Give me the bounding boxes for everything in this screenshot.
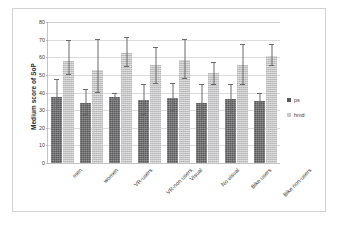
chart-legend: ps hmd	[287, 97, 325, 127]
error-cap-lower	[54, 109, 59, 110]
y-tick-label: 30	[39, 107, 45, 113]
x-tick-label: men	[71, 167, 83, 179]
bar-group	[193, 22, 222, 163]
bar-ps[interactable]	[167, 22, 178, 163]
error-cap-upper	[211, 62, 216, 63]
bar-rect	[254, 101, 265, 163]
bar-hmd[interactable]	[208, 22, 219, 163]
bar-rect	[121, 53, 132, 163]
error-bar	[242, 45, 243, 86]
bar-hmd[interactable]	[92, 22, 103, 163]
error-cap-lower	[170, 110, 175, 111]
error-cap-upper	[83, 89, 88, 90]
error-bar	[97, 40, 98, 94]
error-cap-upper	[112, 93, 117, 94]
error-cap-upper	[182, 39, 187, 40]
error-bar	[155, 48, 156, 84]
error-cap-lower	[240, 84, 245, 85]
error-cap-lower	[211, 84, 216, 85]
plot-area: 01020304050607080	[47, 22, 280, 164]
bar-group	[48, 22, 77, 163]
x-axis-category-labels: menwomenVR-usersVR-non usersVisualNo vis…	[47, 165, 280, 213]
error-cap-upper	[228, 84, 233, 85]
bar-ps[interactable]	[80, 22, 91, 163]
bar-rect	[63, 61, 74, 163]
error-cap-lower	[124, 66, 129, 67]
bar-ps[interactable]	[196, 22, 207, 163]
legend-swatch-icon-ps	[287, 98, 291, 102]
bar-group	[222, 22, 251, 163]
error-cap-upper	[257, 93, 262, 94]
error-cap-upper	[153, 47, 158, 48]
error-cap-lower	[112, 99, 117, 100]
error-bar	[172, 84, 173, 111]
bar-ps[interactable]	[51, 22, 62, 163]
bar-rect	[109, 97, 120, 163]
error-cap-upper	[240, 44, 245, 45]
bar-hmd[interactable]	[237, 22, 248, 163]
x-tick-label: Bike users	[250, 167, 273, 190]
error-cap-upper	[269, 44, 274, 45]
bar-hmd[interactable]	[63, 22, 74, 163]
error-cap-upper	[95, 39, 100, 40]
y-tick-label: 60	[39, 54, 45, 60]
legend-label-ps: ps	[294, 97, 300, 103]
legend-swatch-icon-hmd	[287, 113, 291, 117]
error-cap-upper	[141, 84, 146, 85]
error-bar	[230, 85, 231, 114]
y-tick-label: 80	[39, 19, 45, 25]
x-tick-label: VR-non users	[165, 167, 193, 195]
x-tick-label: women	[102, 167, 119, 184]
error-bar	[201, 85, 202, 119]
error-bar	[143, 85, 144, 115]
y-tick-label: 10	[39, 142, 45, 148]
error-cap-lower	[83, 114, 88, 115]
legend-label-hmd: hmd	[294, 112, 305, 118]
error-cap-lower	[228, 113, 233, 114]
error-bar	[271, 45, 272, 66]
y-tick-label: 0	[42, 160, 45, 166]
bar-rect	[266, 56, 277, 164]
error-cap-lower	[269, 65, 274, 66]
y-tick-label: 70	[39, 37, 45, 43]
error-bar	[56, 80, 57, 110]
bar-ps[interactable]	[109, 22, 120, 163]
error-bar	[126, 38, 127, 67]
x-tick-label: No visual	[220, 167, 241, 188]
bar-group	[106, 22, 135, 163]
error-cap-lower	[257, 107, 262, 108]
bar-hmd[interactable]	[179, 22, 190, 163]
error-cap-upper	[54, 79, 59, 80]
error-cap-upper	[170, 83, 175, 84]
bar-hmd[interactable]	[266, 22, 277, 163]
error-cap-lower	[153, 83, 158, 84]
error-bar	[213, 63, 214, 86]
bar-hmd[interactable]	[121, 22, 132, 163]
y-axis-title: Medium score of SoP	[30, 47, 37, 147]
error-cap-upper	[199, 84, 204, 85]
bar-hmd[interactable]	[150, 22, 161, 163]
y-tick-label: 50	[39, 72, 45, 78]
error-cap-lower	[141, 114, 146, 115]
bar-series-container	[48, 22, 280, 163]
error-cap-lower	[66, 74, 71, 75]
x-tick-label: VR-users	[133, 167, 154, 188]
error-bar	[68, 41, 69, 75]
error-cap-lower	[182, 78, 187, 79]
bar-rect	[208, 73, 219, 163]
bar-group	[164, 22, 193, 163]
error-cap-upper	[124, 37, 129, 38]
bar-group	[135, 22, 164, 163]
error-cap-lower	[95, 92, 100, 93]
error-bar	[259, 94, 260, 108]
legend-item-hmd[interactable]: hmd	[287, 112, 325, 118]
y-tick-label: 40	[39, 90, 45, 96]
error-cap-upper	[66, 40, 71, 41]
bar-ps[interactable]	[225, 22, 236, 163]
bar-ps[interactable]	[138, 22, 149, 163]
chart-figure: Medium score of SoP 01020304050607080 me…	[12, 8, 326, 212]
y-tick-label: 20	[39, 125, 45, 131]
x-tick-label: Bike non-users	[282, 167, 313, 198]
bar-ps[interactable]	[254, 22, 265, 163]
legend-item-ps[interactable]: ps	[287, 97, 325, 103]
